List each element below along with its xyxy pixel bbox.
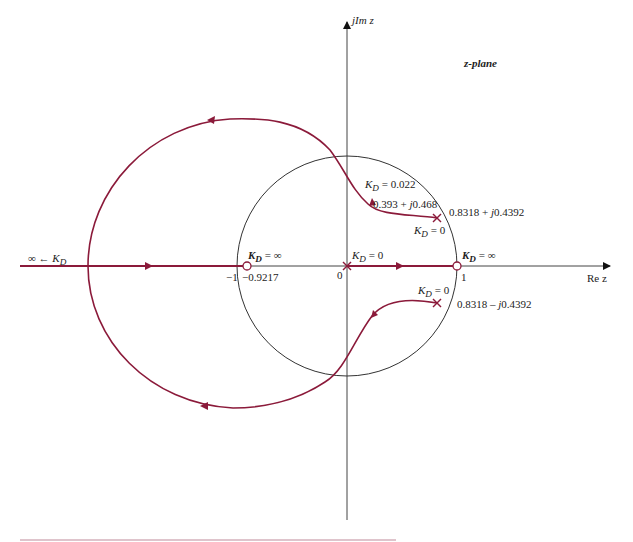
kd0-lower: KD = 0 [418, 285, 449, 299]
kd-crossing-gain: KD = 0.022 [365, 179, 415, 193]
root-locus-plot [0, 0, 633, 542]
minus-one-label: −1 [226, 272, 238, 283]
arrow-loop-top [207, 116, 215, 124]
lower-pole-label: 0.8318 – j0.4392 [457, 299, 532, 310]
origin-label: 0 [337, 270, 343, 281]
one-label: 1 [461, 272, 467, 283]
arrow-left-branch [145, 262, 153, 270]
imag-axis-label: jIm z [352, 15, 374, 26]
zero-one [453, 262, 461, 270]
arrow-origin-branch [396, 262, 404, 270]
kd-inf-right: KD = ∞ [462, 250, 496, 264]
kd0-upper: KD = 0 [414, 225, 445, 239]
zero-value-label: −0.9217 [242, 272, 278, 283]
plane-label: z-plane [464, 58, 497, 69]
real-axis-label: Re z [587, 273, 607, 284]
crossing-point-label: 0.393 + j0.468 [373, 199, 437, 210]
kd0-origin: KD = 0 [352, 250, 383, 264]
upper-pole-label: 0.8318 + j0.4392 [449, 207, 524, 218]
infinity-branch-label: ∞ ← KD [28, 253, 66, 267]
kd-inf-left: KD = ∞ [248, 250, 282, 264]
